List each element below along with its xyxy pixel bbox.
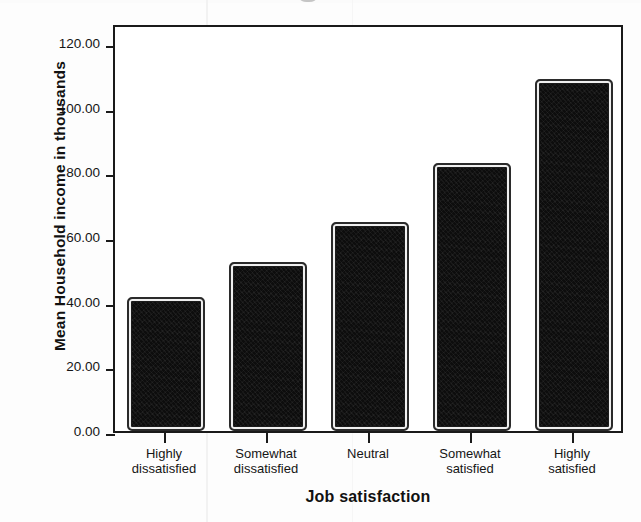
x-axis-tick — [164, 433, 166, 443]
y-axis-tick — [106, 369, 115, 371]
x-axis-tick — [572, 433, 574, 443]
x-axis-tick — [368, 433, 370, 443]
chart-figure: Mean Household income in thousands Job s… — [0, 0, 641, 522]
scan-artifact-top — [0, 0, 641, 3]
y-axis-tick — [106, 111, 115, 113]
bar — [127, 297, 205, 431]
y-axis-tick — [106, 240, 115, 242]
y-axis-tick — [106, 46, 115, 48]
y-axis-tick-label: 40.00 — [40, 295, 100, 310]
x-axis-category-line: dissatisfied — [206, 461, 326, 476]
x-axis-tick — [266, 433, 268, 443]
x-axis-category-line: satisfied — [512, 461, 632, 476]
y-axis-tick-label: 120.00 — [40, 36, 100, 51]
y-axis-tick-label: 100.00 — [40, 101, 100, 116]
bar — [331, 222, 409, 431]
y-axis-tick — [106, 434, 115, 436]
plot-area — [113, 25, 623, 433]
y-axis-tick-label: 20.00 — [40, 359, 100, 374]
y-axis-tick-label: 80.00 — [40, 165, 100, 180]
x-axis-tick — [470, 433, 472, 443]
y-axis-tick-label: 60.00 — [40, 230, 100, 245]
bar — [535, 79, 613, 431]
bar — [433, 163, 511, 431]
x-axis-title: Job satisfaction — [113, 488, 623, 506]
bar — [229, 262, 307, 431]
y-axis-title: Mean Household income in thousands — [51, 6, 69, 406]
y-axis-tick — [106, 305, 115, 307]
y-axis-tick — [106, 175, 115, 177]
y-axis-tick-label: 0.00 — [40, 424, 100, 439]
x-axis-category-line: Highly — [512, 446, 632, 461]
x-axis-category-label: Highlysatisfied — [512, 446, 632, 476]
